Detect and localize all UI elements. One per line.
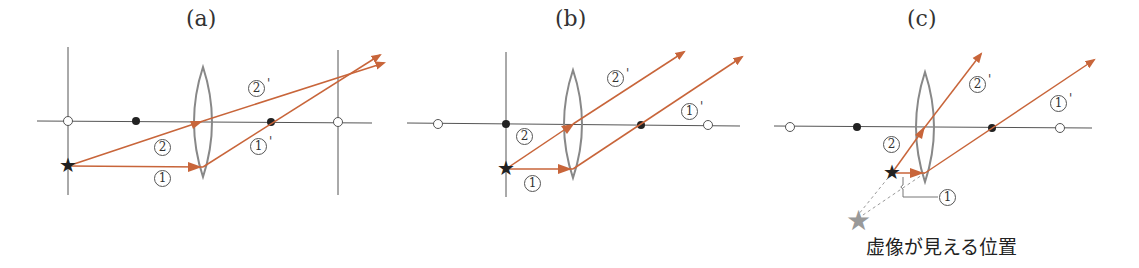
ray-2-label: 2	[516, 128, 533, 145]
star-object-icon: ★	[497, 156, 515, 180]
ray-1-refracted	[925, 60, 1094, 173]
ray-2-out-label: 2	[607, 70, 624, 87]
open-focus-point	[786, 123, 795, 132]
lens-diagrams: ★ ★ ★ ★	[0, 0, 1139, 268]
ray-2-label: 2	[154, 139, 171, 156]
ray-2-refracted	[573, 52, 684, 124]
focal-point	[502, 120, 510, 128]
ray-1-label: 1	[939, 189, 956, 206]
panel-a-title: (a)	[186, 6, 216, 31]
panel-c-title: (c)	[907, 6, 937, 31]
virtual-image-caption: 虚像が見える位置	[866, 232, 1017, 259]
focal-point	[132, 117, 140, 125]
open-focus-point	[334, 118, 343, 127]
ray-2-refracted	[203, 63, 384, 121]
panel-c: ★ ★	[774, 54, 1094, 237]
ray-1-out-label: 1	[681, 103, 698, 120]
star-object-icon: ★	[883, 160, 901, 184]
panel-b-title: (b)	[555, 6, 586, 31]
open-focus-point	[434, 120, 443, 129]
ray-2-out-label: 2	[248, 80, 265, 97]
panel-b: ★	[407, 52, 742, 197]
ray-1-refracted	[203, 55, 380, 167]
ray-1-refracted	[573, 57, 742, 169]
open-focus-point	[64, 117, 73, 126]
open-focus-point	[704, 121, 713, 130]
focal-point	[853, 123, 861, 131]
open-focus-point	[1056, 124, 1065, 133]
ray-1-label: 1	[154, 170, 171, 187]
star-object-icon: ★	[59, 153, 77, 177]
ray-1-out-label: 1	[250, 138, 267, 155]
ray-1-label: 1	[524, 175, 541, 192]
ray-1-out-label: 1	[1050, 95, 1067, 112]
panel-a: ★	[37, 47, 384, 195]
ray-2-label: 2	[883, 136, 900, 153]
ray-2-out-label: 2	[969, 76, 986, 93]
